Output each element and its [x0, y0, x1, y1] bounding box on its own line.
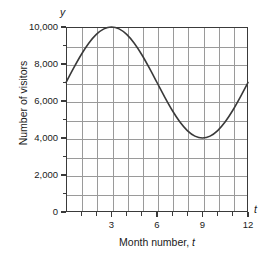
- x-tick-label: 3: [109, 220, 114, 230]
- y-tick-label: 2,000: [0, 170, 58, 180]
- y-axis-symbol: y: [60, 6, 65, 18]
- y-tick-label: 8,000: [0, 59, 58, 69]
- x-minor-tick-mark: [217, 212, 218, 216]
- x-tick-label: 12: [243, 220, 254, 230]
- x-minor-tick-mark: [96, 212, 97, 216]
- y-tick-label: 10,000: [0, 22, 58, 32]
- data-curve: [66, 27, 248, 212]
- x-minor-tick-mark: [187, 212, 188, 216]
- x-minor-tick-mark: [81, 212, 82, 216]
- x-minor-tick-mark: [141, 212, 142, 216]
- x-tick-label: 9: [200, 220, 205, 230]
- y-tick-label: 6,000: [0, 96, 58, 106]
- x-minor-tick-mark: [172, 212, 173, 216]
- x-tick-mark: [111, 212, 112, 217]
- x-axis-symbol: t: [254, 203, 257, 215]
- x-tick-label: 6: [154, 220, 159, 230]
- x-tick-mark: [247, 212, 248, 217]
- x-minor-tick-mark: [232, 212, 233, 216]
- y-tick-label: 4,000: [0, 133, 58, 143]
- x-tick-mark: [156, 212, 157, 217]
- y-tick-label: 0: [0, 207, 58, 217]
- y-axis-title: Number of visitors: [17, 33, 29, 173]
- x-minor-tick-mark: [126, 212, 127, 216]
- x-axis-title: Month number, t: [66, 236, 248, 248]
- x-tick-mark: [202, 212, 203, 217]
- chart-figure: y t 02,0004,0006,0008,00010,000 36912 Nu…: [0, 0, 271, 257]
